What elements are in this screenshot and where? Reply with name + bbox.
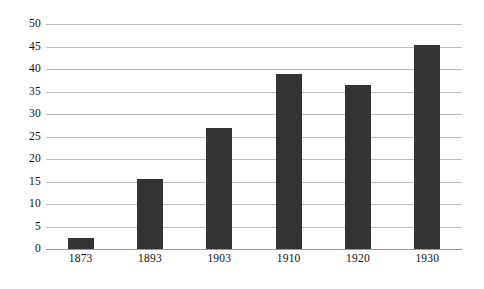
x-axis-tick-label: 1910 bbox=[277, 253, 301, 265]
y-axis-tick-label: 0 bbox=[1, 243, 41, 255]
bar bbox=[137, 179, 163, 249]
y-axis-tick-label: 50 bbox=[1, 18, 41, 30]
y-axis-tick-label: 35 bbox=[1, 86, 41, 98]
bar bbox=[68, 238, 94, 249]
y-axis: 05101520253035404550 bbox=[0, 24, 41, 249]
y-axis-tick-label: 40 bbox=[1, 63, 41, 75]
y-axis-tick-label: 20 bbox=[1, 153, 41, 165]
y-axis-tick-label: 5 bbox=[1, 221, 41, 233]
y-axis-tick-label: 30 bbox=[1, 108, 41, 120]
axis-baseline bbox=[46, 249, 462, 250]
bar bbox=[414, 45, 440, 249]
x-axis-tick-label: 1893 bbox=[138, 253, 162, 265]
x-axis-tick-label: 1873 bbox=[69, 253, 93, 265]
bar-chart: 05101520253035404550 1873189319031910192… bbox=[0, 0, 484, 289]
y-axis-tick-label: 15 bbox=[1, 176, 41, 188]
y-axis-tick-label: 25 bbox=[1, 131, 41, 143]
bar bbox=[206, 128, 232, 250]
y-axis-tick-label: 45 bbox=[1, 41, 41, 53]
bar bbox=[276, 74, 302, 250]
x-axis: 187318931903191019201930 bbox=[46, 253, 462, 275]
y-axis-tick-label: 10 bbox=[1, 198, 41, 210]
bar bbox=[345, 85, 371, 249]
x-axis-tick-label: 1930 bbox=[415, 253, 439, 265]
x-axis-tick-label: 1920 bbox=[346, 253, 370, 265]
bars-layer bbox=[46, 24, 462, 249]
x-axis-tick-label: 1903 bbox=[207, 253, 231, 265]
